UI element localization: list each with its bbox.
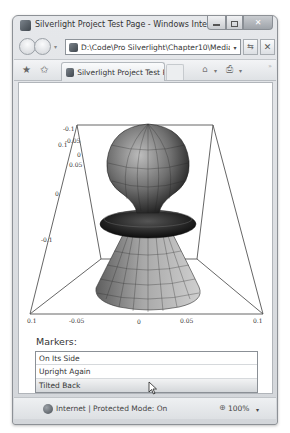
title-bar[interactable]: Silverlight Project Test Page - Windows … [13,16,277,36]
command-bar: ★ ✩ Silverlight Project Test P... ⌂ ▾ ⎙ … [14,59,276,81]
mouse-cursor-icon [148,381,158,395]
close-button[interactable]: ✕ [243,16,273,30]
forward-button[interactable] [34,38,51,55]
add-favorites-icon[interactable]: ✩ [40,64,48,75]
svg-text:0.1: 0.1 [58,141,68,148]
address-dropdown-icon[interactable]: ▾ [230,44,240,51]
svg-text:0.05: 0.05 [69,161,83,168]
svg-text:-0.05: -0.05 [69,317,85,324]
tab-page-icon [66,68,74,77]
status-bar: Internet | Protected Mode: On ⊕ 100% ▾ [14,397,276,419]
internet-zone-globe-icon [43,404,53,414]
new-tab-button[interactable] [166,64,184,80]
browser-window: Silverlight Project Test Page - Windows … [12,15,278,425]
svg-text:-0.1: -0.1 [41,236,53,243]
print-dropdown-icon[interactable]: ▾ [239,67,242,74]
window-title: Silverlight Project Test Page - Windows … [35,20,210,29]
svg-text:0: 0 [77,151,81,158]
more-tools-icon[interactable]: » [268,62,272,69]
tab-label: Silverlight Project Test P... [77,68,164,77]
print-icon[interactable]: ⎙ [226,64,233,75]
marker-item-upright-again[interactable]: Upright Again [36,365,257,378]
markers-label: Markers: [36,336,77,347]
maximize-button[interactable] [226,16,243,30]
address-bar[interactable]: D:\Code\Pro Silverlight\Chapter10\Media\… [65,39,241,55]
recent-pages-dropdown[interactable]: ▾ [54,43,57,50]
zoom-level[interactable]: 100% [228,404,249,413]
zoom-dropdown-icon[interactable]: ▾ [256,406,259,413]
markers-listbox[interactable]: On Its Side Upright Again Tilted Back [35,351,258,393]
address-input[interactable]: D:\Code\Pro Silverlight\Chapter10\Media\… [81,43,230,52]
svg-text:0: 0 [55,190,59,197]
ie-page-icon [20,20,31,31]
svg-text:0.1: 0.1 [253,317,263,324]
window-controls: ✕ [207,16,273,30]
security-zone-text[interactable]: Internet | Protected Mode: On [56,404,167,413]
marker-item-tilted-back[interactable]: Tilted Back [36,379,257,392]
tab-silverlight-test-page[interactable]: Silverlight Project Test P... [61,62,165,81]
svg-text:-0.1: -0.1 [63,125,75,132]
refresh-button[interactable]: ⇆ [243,39,258,55]
page-content: -0.1 -0.05 0.1 0 0.05 0 -0.1 0.1 -0.05 0… [18,82,273,394]
marker-item-on-its-side[interactable]: On Its Side [36,352,257,365]
home-icon[interactable]: ⌂ [202,64,208,74]
bottom-axis-ticks: 0.1 -0.05 0 0.05 0.1 [27,317,263,325]
zoom-magnifier-icon[interactable]: ⊕ [219,403,226,412]
svg-text:0.05: 0.05 [180,317,194,324]
home-dropdown-icon[interactable]: ▾ [214,67,217,74]
close-icon: ✕ [244,17,272,28]
maximize-icon [231,21,238,27]
minimize-icon [213,24,220,26]
minimize-button[interactable] [207,16,226,30]
navigation-bar: ▾ D:\Code\Pro Silverlight\Chapter10\Medi… [13,36,277,58]
svg-text:0.1: 0.1 [27,317,37,324]
page-icon [69,43,78,52]
svg-text:0: 0 [137,318,141,325]
favorites-icon[interactable]: ★ [22,64,31,75]
3d-plot-media: -0.1 -0.05 0.1 0 0.05 0 -0.1 0.1 -0.05 0… [19,83,274,333]
stop-button[interactable]: ✕ [260,39,275,55]
left-axis-ticks: -0.1 -0.05 0.1 0 0.05 0 -0.1 [41,125,83,243]
